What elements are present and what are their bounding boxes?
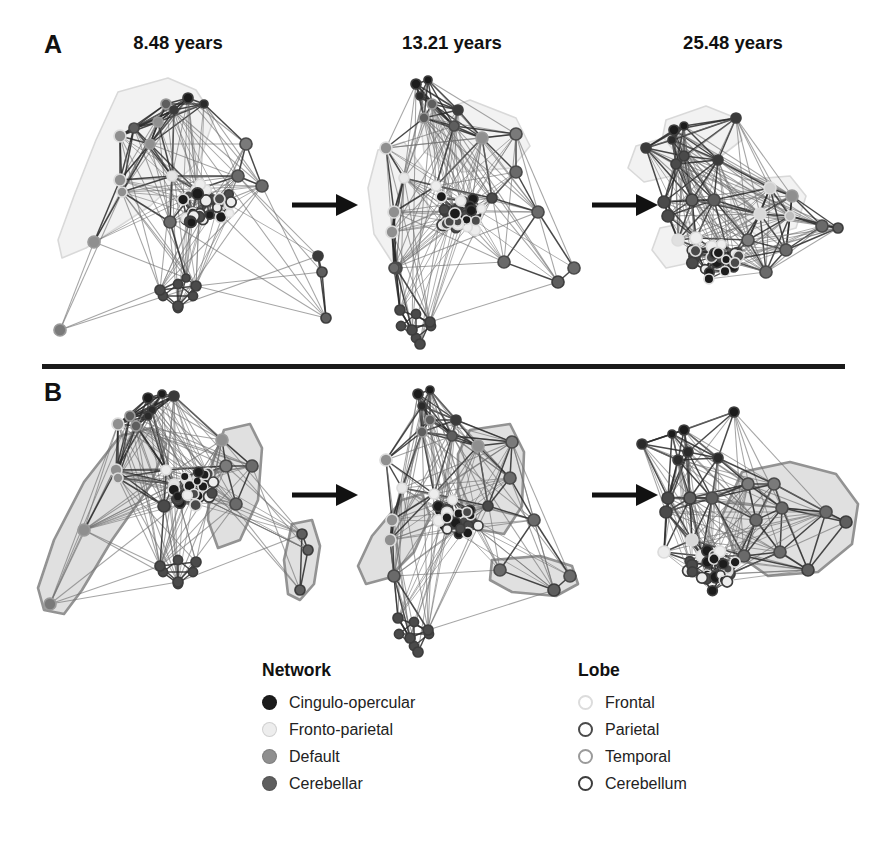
graph-node bbox=[161, 99, 171, 109]
graph-node bbox=[155, 285, 165, 295]
graph-node bbox=[143, 393, 153, 403]
graph-node bbox=[173, 279, 182, 288]
graph-node bbox=[411, 79, 421, 89]
graph-node bbox=[679, 425, 689, 435]
graph-node bbox=[442, 513, 452, 523]
legend-lobe: Lobe Frontal Parietal Temporal Cerebellu… bbox=[578, 660, 687, 797]
graph-node bbox=[413, 647, 423, 657]
graph-node bbox=[564, 570, 576, 582]
arrow-icon-a1 bbox=[290, 185, 360, 225]
legend-label-cerebellum: Cerebellum bbox=[605, 770, 687, 797]
graph-node bbox=[192, 188, 204, 200]
graph-b-13.21 bbox=[358, 386, 578, 657]
graph-node bbox=[380, 142, 392, 154]
graph-node bbox=[687, 257, 698, 268]
graph-node bbox=[178, 194, 189, 205]
graph-node bbox=[669, 125, 679, 135]
swatch-cingulo-opercular bbox=[262, 695, 277, 710]
graph-node bbox=[466, 205, 476, 215]
graph-node bbox=[173, 492, 182, 501]
graph-node bbox=[713, 453, 723, 463]
graph-node bbox=[114, 130, 126, 142]
graph-node bbox=[730, 557, 740, 567]
graph-node bbox=[462, 507, 471, 516]
graph-node bbox=[704, 274, 714, 284]
graph-node bbox=[167, 171, 177, 181]
graph-node bbox=[317, 267, 327, 277]
graph-node bbox=[742, 234, 754, 246]
graph-node bbox=[708, 194, 720, 206]
graph-node bbox=[117, 187, 127, 197]
graph-node bbox=[786, 190, 798, 202]
graph-node bbox=[443, 525, 452, 534]
legend-item-frontal: Frontal bbox=[578, 689, 687, 716]
graph-node bbox=[679, 151, 689, 161]
graph-node bbox=[240, 138, 252, 150]
figure-root: A B 8.48 years 13.21 years 25.48 years N… bbox=[0, 0, 875, 842]
graph-node bbox=[208, 477, 218, 487]
graph-node bbox=[214, 194, 225, 205]
graph-node bbox=[158, 390, 166, 398]
graph-node bbox=[686, 534, 698, 546]
graph-node bbox=[510, 128, 522, 140]
graph-node bbox=[713, 248, 723, 258]
graph-node bbox=[232, 170, 244, 182]
legend-label-temporal: Temporal bbox=[605, 743, 671, 770]
graph-node bbox=[297, 529, 307, 539]
graph-node bbox=[451, 415, 461, 425]
graph-node bbox=[668, 430, 676, 438]
graph-node bbox=[487, 193, 497, 203]
graph-node bbox=[840, 516, 852, 528]
graph-a-25.48 bbox=[628, 106, 843, 284]
graph-node bbox=[683, 447, 693, 457]
graph-node bbox=[785, 211, 795, 221]
graph-node bbox=[131, 421, 141, 431]
graph-node bbox=[548, 584, 560, 596]
graph-node bbox=[200, 100, 208, 108]
graph-node bbox=[405, 633, 415, 643]
legend-label-fronto-parietal: Fronto-parietal bbox=[289, 716, 393, 743]
graph-node bbox=[449, 208, 461, 220]
graph-node bbox=[473, 521, 483, 531]
graph-node bbox=[388, 206, 400, 218]
graph-node bbox=[453, 105, 463, 115]
graph-node bbox=[170, 106, 178, 114]
graph-node bbox=[256, 180, 268, 192]
graph-node bbox=[774, 546, 786, 558]
graph-node bbox=[731, 113, 741, 123]
graph-node bbox=[125, 411, 135, 421]
graph-node bbox=[395, 305, 405, 315]
network-graphs bbox=[0, 0, 875, 660]
graph-node bbox=[472, 440, 484, 452]
graph-node bbox=[671, 159, 681, 169]
graph-node bbox=[448, 495, 458, 505]
graph-node bbox=[164, 216, 176, 228]
swatch-cerebellar bbox=[262, 776, 277, 791]
graph-node bbox=[684, 492, 696, 504]
graph-node bbox=[206, 211, 214, 219]
graph-node bbox=[436, 191, 447, 202]
graph-node bbox=[423, 625, 433, 635]
graph-node bbox=[220, 460, 232, 472]
graph-node bbox=[153, 117, 163, 127]
graph-node bbox=[429, 489, 439, 499]
graph-node bbox=[754, 208, 766, 220]
graph-node bbox=[504, 472, 516, 484]
graph-node bbox=[216, 434, 228, 446]
graph-node bbox=[730, 258, 740, 268]
graph-node bbox=[427, 99, 437, 109]
graph-node bbox=[713, 155, 723, 165]
graph-node bbox=[188, 567, 197, 576]
legend-item-temporal: Temporal bbox=[578, 743, 687, 770]
legend-network-title: Network bbox=[262, 660, 415, 680]
legend-lobe-title: Lobe bbox=[578, 660, 687, 680]
graph-node bbox=[303, 545, 313, 555]
graph-node bbox=[144, 412, 152, 420]
graph-node bbox=[173, 301, 183, 311]
graph-node bbox=[112, 418, 124, 430]
graph-node bbox=[532, 206, 544, 218]
graph-node bbox=[389, 263, 399, 273]
graph-node bbox=[662, 492, 674, 504]
swatch-default bbox=[262, 749, 277, 764]
graph-node bbox=[768, 478, 780, 490]
